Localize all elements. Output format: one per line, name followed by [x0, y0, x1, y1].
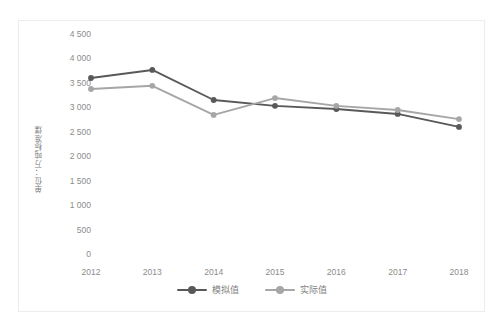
legend-marker-icon — [177, 285, 207, 294]
plot-surface: 单位：万吨标准煤 05001 0001 5002 0002 5003 0003 … — [19, 21, 484, 311]
x-tick-label: 2013 — [143, 267, 162, 277]
legend-item[interactable]: 实际值 — [265, 283, 327, 296]
x-tick-label: 2012 — [82, 267, 101, 277]
x-tick-label: 2015 — [266, 267, 285, 277]
legend-label: 模拟值 — [212, 283, 239, 296]
x-tick-label: 2016 — [327, 267, 346, 277]
x-tick-label: 2017 — [388, 267, 407, 277]
legend-label: 实际值 — [300, 283, 327, 296]
x-tick-label: 2014 — [204, 267, 223, 277]
x-axis-tick-labels: 2012201320142015201620172018 — [19, 21, 484, 311]
legend-item[interactable]: 模拟值 — [177, 283, 239, 296]
chart-legend: 模拟值实际值 — [19, 283, 484, 296]
chart-figure: 单位：万吨标准煤 05001 0001 5002 0002 5003 0003 … — [18, 20, 485, 312]
x-tick-label: 2018 — [450, 267, 469, 277]
legend-marker-icon — [265, 285, 295, 294]
